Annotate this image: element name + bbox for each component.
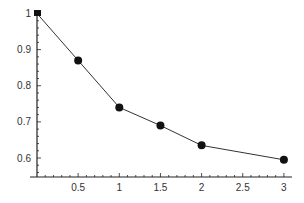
x-tick-label: 3 xyxy=(281,182,287,193)
y-tick-label: 1 xyxy=(25,8,31,19)
y-tick-label: 0.6 xyxy=(17,153,31,164)
data-point-marker xyxy=(115,103,123,111)
data-point-marker xyxy=(156,121,164,129)
tick-labels: 0.60.70.80.910.511.522.53 xyxy=(17,8,287,193)
data-point-marker xyxy=(198,141,206,149)
series-line xyxy=(37,14,284,160)
data-point-marker xyxy=(74,56,82,64)
data-series xyxy=(34,10,288,164)
y-tick-label: 0.7 xyxy=(17,116,31,127)
line-chart: 0.60.70.80.910.511.522.53 xyxy=(0,0,304,203)
ticks xyxy=(37,14,284,178)
x-tick-label: 1.5 xyxy=(153,182,167,193)
x-tick-label: 2.5 xyxy=(236,182,250,193)
x-tick-label: 0.5 xyxy=(71,182,85,193)
y-tick-label: 0.8 xyxy=(17,80,31,91)
data-point-marker xyxy=(34,10,41,16)
x-tick-label: 1 xyxy=(117,182,123,193)
y-tick-label: 0.9 xyxy=(17,44,31,55)
x-tick-label: 2 xyxy=(199,182,205,193)
axes xyxy=(30,10,292,177)
chart-canvas: 0.60.70.80.910.511.522.53 xyxy=(0,0,304,203)
data-point-marker xyxy=(280,156,288,164)
